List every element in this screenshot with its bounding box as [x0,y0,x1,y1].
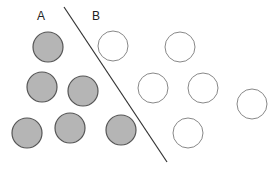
hollow-circle [188,73,218,103]
hollow-circle [98,31,128,61]
diagram-canvas [0,0,280,180]
label-b: B [92,9,100,23]
filled-circle [33,32,63,62]
hollow-circle [173,118,203,148]
filled-circle [68,76,98,106]
hollow-circle [165,32,195,62]
filled-circle [55,113,85,143]
hollow-circle [138,73,168,103]
hollow-circle [237,89,267,119]
filled-circle [27,72,57,102]
label-a: A [37,9,45,23]
filled-circle [12,118,42,148]
filled-circle [106,115,136,145]
